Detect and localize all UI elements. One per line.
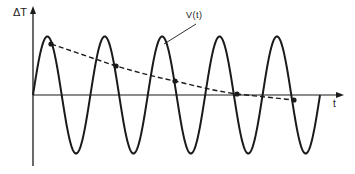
curve-label-v: V(t) — [186, 10, 203, 20]
data-point — [234, 91, 239, 96]
x-axis — [33, 92, 344, 98]
v-label-leader-line — [164, 24, 196, 44]
data-point — [172, 78, 177, 83]
y-axis-arrow-icon — [30, 6, 36, 14]
data-point — [113, 63, 118, 68]
y-axis-label: ΔT — [13, 6, 27, 18]
data-point — [48, 41, 53, 46]
data-point — [291, 97, 296, 102]
diagram-canvas — [0, 0, 355, 174]
x-axis-arrow-icon — [336, 92, 344, 98]
x-axis-label: t — [333, 98, 336, 109]
